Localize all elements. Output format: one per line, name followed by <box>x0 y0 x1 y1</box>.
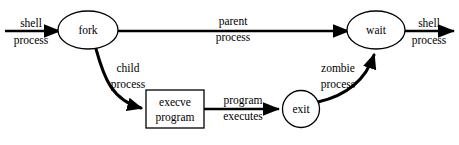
shell-out-line2: process <box>412 34 447 47</box>
shell-in-line1: shell <box>20 17 42 29</box>
node-fork[interactable]: fork <box>58 11 118 49</box>
edge-label-child-process: child process <box>111 62 146 91</box>
child-line1: child <box>117 62 140 74</box>
wait-label: wait <box>366 24 387 36</box>
execve-label-line2: program <box>156 111 195 124</box>
flow-canvas: fork wait execve program exit shell proc… <box>0 0 459 145</box>
parent-line1: parent <box>219 15 249 28</box>
parent-line2: process <box>216 31 251 44</box>
edge-label-zombie-process: zombie process <box>321 62 356 91</box>
zombie-line2: process <box>321 78 356 91</box>
process-flow-diagram: fork wait execve program exit shell proc… <box>0 0 459 145</box>
fork-label: fork <box>78 24 97 36</box>
shell-out-line1: shell <box>418 17 440 29</box>
node-execve-program[interactable]: execve program <box>146 90 204 128</box>
node-wait[interactable]: wait <box>347 11 405 49</box>
edge-label-parent-process: parent process <box>216 15 251 44</box>
program-line2: executes <box>223 110 263 122</box>
program-line1: program <box>224 94 263 107</box>
child-line2: process <box>111 78 146 91</box>
node-exit[interactable]: exit <box>283 91 320 128</box>
zombie-line1: zombie <box>321 62 355 74</box>
exit-label: exit <box>292 103 310 115</box>
shell-in-line2: process <box>14 34 49 47</box>
execve-label-line1: execve <box>159 96 191 108</box>
